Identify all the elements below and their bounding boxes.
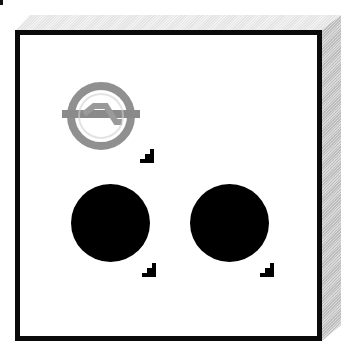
black-dot-button-right[interactable]	[190, 184, 269, 262]
frame-bevel-right	[322, 15, 341, 341]
frame-bevel-top	[15, 15, 341, 31]
signal-ring-button[interactable]	[62, 78, 140, 154]
corner-marker-icon	[260, 263, 274, 277]
signal-ring-icon	[62, 78, 140, 154]
corner-marker-icon	[140, 149, 154, 163]
corner-marker-icon	[142, 263, 156, 277]
black-dot-button-left[interactable]	[71, 184, 150, 262]
tool-palette-frame	[15, 30, 322, 341]
corner-mark	[0, 0, 3, 5]
